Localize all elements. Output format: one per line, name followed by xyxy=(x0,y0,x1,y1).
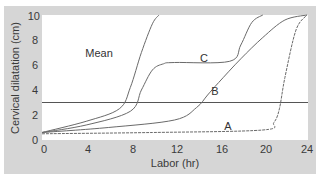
x-axis-label: Labor (hr) xyxy=(151,157,199,169)
x-tick: 24 xyxy=(301,143,313,155)
y-axis-label: Cervical dilatation (cm) xyxy=(9,22,21,134)
plot-area xyxy=(42,15,308,140)
x-tick: 16 xyxy=(216,143,228,155)
y-ticks: 0 2 4 6 8 10 xyxy=(28,10,40,146)
x-tick: 8 xyxy=(130,143,136,155)
y-tick: 2 xyxy=(32,109,38,121)
x-tick: 4 xyxy=(85,143,91,155)
curve-label-a: A xyxy=(224,120,232,132)
y-tick: 0 xyxy=(32,134,38,146)
x-tick: 0 xyxy=(41,143,47,155)
x-tick: 20 xyxy=(260,143,272,155)
y-tick: 6 xyxy=(32,59,38,71)
y-tick: 10 xyxy=(28,10,40,22)
curve-label-c: C xyxy=(200,52,208,64)
curve-label-b: B xyxy=(211,85,218,97)
y-tick: 8 xyxy=(32,34,38,46)
x-tick: 12 xyxy=(171,143,183,155)
x-ticks: 0 4 8 12 16 20 24 xyxy=(41,143,313,155)
y-tick: 4 xyxy=(32,84,38,96)
chart: 0 2 4 6 8 10 0 4 8 12 16 20 24 Labor (hr… xyxy=(0,0,320,180)
curve-label-mean: Mean xyxy=(85,47,113,59)
